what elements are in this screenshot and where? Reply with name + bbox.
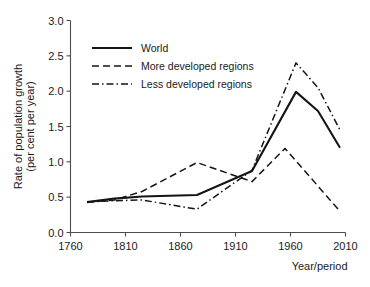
x-tick-label: 1860: [168, 240, 192, 252]
y-tick-label: 1.0: [48, 156, 63, 168]
y-axis-title-line2: (per cent per year): [24, 81, 36, 171]
chart-canvas: 0.00.51.01.52.02.53.0 176018101860191019…: [0, 0, 370, 287]
x-axis-tick-labels: 176018101860191019602010: [58, 240, 357, 252]
y-tick-label: 0.0: [48, 227, 63, 239]
y-axis-title: Rate of population growth (per cent per …: [12, 64, 36, 189]
x-axis-title: Year/period: [292, 260, 348, 272]
series-line-more-developed-regions: [87, 148, 340, 211]
y-tick-label: 2.5: [48, 50, 63, 62]
y-axis-tickmarks: [67, 21, 71, 233]
x-tick-label: 1810: [113, 240, 137, 252]
y-axis-tick-labels: 0.00.51.01.52.02.53.0: [48, 15, 63, 239]
y-tick-label: 2.0: [48, 85, 63, 97]
legend-label-0: World: [141, 42, 168, 54]
x-tick-label: 1760: [58, 240, 82, 252]
chart-legend: WorldMore developed regionsLess develope…: [92, 42, 254, 90]
x-axis-tickmarks: [71, 233, 346, 237]
legend-label-1: More developed regions: [141, 60, 254, 72]
legend-label-2: Less developed regions: [141, 78, 252, 90]
y-tick-label: 1.5: [48, 121, 63, 133]
series-line-world: [87, 92, 340, 202]
y-tick-label: 3.0: [48, 15, 63, 27]
y-tick-label: 0.5: [48, 191, 63, 203]
y-axis-title-line1: Rate of population growth: [12, 64, 24, 189]
population-growth-chart-figure: 0.00.51.01.52.02.53.0 176018101860191019…: [0, 0, 370, 287]
x-tick-label: 1960: [278, 240, 302, 252]
x-tick-label: 1910: [223, 240, 247, 252]
x-tick-label: 2010: [333, 240, 357, 252]
